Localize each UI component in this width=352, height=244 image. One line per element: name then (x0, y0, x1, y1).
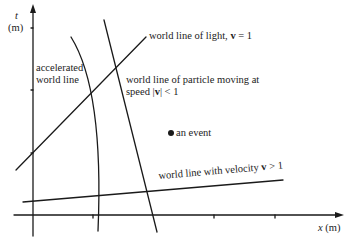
particle-label-line2: speed |v| < 1 (126, 86, 259, 98)
particle-world-line (104, 20, 157, 232)
accelerated-label-line1: accelerated (36, 62, 83, 74)
x-axis-unit: (m) (325, 222, 340, 233)
event-label: an event (176, 127, 211, 139)
particle-label-line1: world line of particle moving at (126, 74, 259, 86)
light-label: world line of light, v = 1 (149, 30, 252, 42)
accelerated-label-line2: world line (36, 74, 83, 86)
particle-label: world line of particle moving at speed |… (126, 74, 259, 98)
superluminal-label-gt: > 1 (266, 160, 283, 172)
accelerated-label: accelerated world line (36, 62, 83, 86)
event-dot (168, 130, 174, 136)
t-axis-label: t (15, 10, 18, 22)
x-axis-label: x (m) (318, 222, 340, 234)
light-label-text: world line of light, (149, 30, 230, 41)
particle-label-lt: | < 1 (160, 86, 179, 97)
particle-label-speed: speed | (126, 86, 155, 97)
x-axis-symbol: x (318, 222, 323, 233)
light-label-eq: = 1 (236, 30, 252, 41)
t-axis-unit: (m) (8, 22, 23, 34)
t-axis-arrow-icon (30, 4, 36, 13)
x-axis-arrow-icon (335, 212, 344, 218)
superluminal-world-line (23, 180, 283, 202)
